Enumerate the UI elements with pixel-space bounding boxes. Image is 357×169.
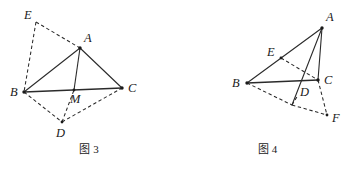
vertex-label-A: A <box>325 10 334 24</box>
vertex-dot-A <box>78 46 81 49</box>
vertex-label-D: D <box>299 85 309 99</box>
figure-3-caption-prefix: 图 <box>79 143 90 156</box>
vertex-dot-C <box>316 78 319 81</box>
figure-4-caption-number: 4 <box>272 143 278 155</box>
figure-3-dashed-edges <box>24 22 122 122</box>
vertex-dot-B <box>245 81 248 84</box>
figure-3-canvas: A B C M D E <box>0 0 178 140</box>
figure-4-caption: 图4 <box>178 140 357 156</box>
figures-container: A B C M D E <box>0 0 357 169</box>
edge-EC <box>281 58 318 80</box>
figure-3-caption: 图3 <box>0 140 178 156</box>
vertex-dot-F <box>326 114 329 117</box>
edge-GF <box>292 105 327 115</box>
edge-AM <box>74 48 80 90</box>
figure-4-caption-prefix: 图 <box>258 143 269 156</box>
edge-AC <box>80 48 122 88</box>
figure-3-vertices <box>22 46 123 123</box>
vertex-label-B: B <box>232 76 240 90</box>
vertex-label-E: E <box>23 8 32 22</box>
edge-EB <box>24 22 36 92</box>
vertex-dot-A <box>320 26 323 29</box>
vertex-label-E: E <box>266 45 275 59</box>
vertex-label-B: B <box>10 85 18 99</box>
vertex-label-M: M <box>69 92 81 106</box>
figure-4-dashed-edges <box>247 58 327 115</box>
figure-4-labels: A B C D E F <box>232 10 340 125</box>
edge-AB <box>24 48 80 92</box>
vertex-dot-C <box>120 86 123 89</box>
figure-3-caption-number: 3 <box>93 143 99 155</box>
edge-EA <box>36 22 80 48</box>
edge-BG <box>247 83 292 105</box>
vertex-label-C: C <box>128 81 137 95</box>
edge-BD <box>24 92 62 122</box>
vertex-label-F: F <box>331 111 340 125</box>
vertex-dot-D <box>61 121 64 124</box>
figure-4-canvas: A B C D E F <box>178 0 357 140</box>
edge-BC <box>247 80 318 83</box>
vertex-label-C: C <box>324 73 333 87</box>
figure-4-solid-edges <box>247 28 322 105</box>
vertex-label-D: D <box>55 126 65 140</box>
vertex-dot-M <box>73 89 76 92</box>
vertex-dot-B <box>22 90 25 93</box>
figure-3-labels: A B C M D E <box>10 8 137 140</box>
figure-3-solid-edges <box>24 48 122 92</box>
vertex-label-A: A <box>83 31 92 45</box>
vertex-dot-E <box>280 57 283 60</box>
